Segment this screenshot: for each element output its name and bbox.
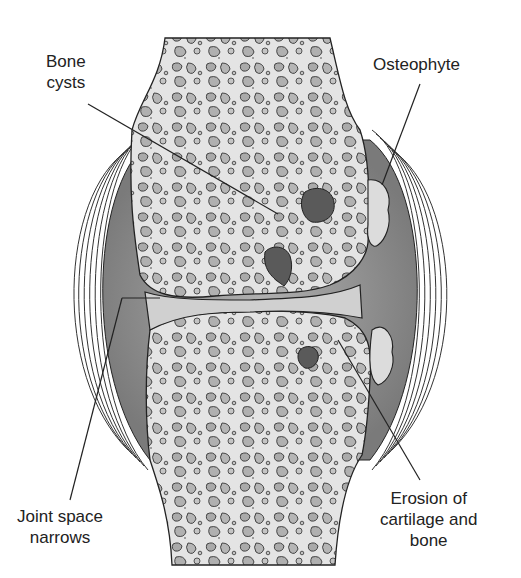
label-line: Bone [46, 51, 86, 72]
label-osteophyte: Osteophyte [373, 54, 460, 75]
bone-cyst-3 [298, 347, 318, 369]
label-line: Osteophyte [373, 54, 460, 75]
label-line: Erosion of [380, 488, 477, 509]
label-line: bone [380, 530, 477, 551]
label-bone-cysts: Bone cysts [46, 51, 86, 93]
label-line: cysts [46, 72, 86, 93]
upper-bone [131, 38, 369, 297]
label-line: Joint space [17, 506, 103, 527]
lower-bone [146, 311, 370, 565]
label-line: narrows [17, 527, 103, 548]
label-line: cartilage and [380, 509, 477, 530]
label-erosion: Erosion of cartilage and bone [380, 488, 477, 551]
bone-cyst-1 [301, 188, 334, 222]
label-joint-space: Joint space narrows [17, 506, 103, 548]
